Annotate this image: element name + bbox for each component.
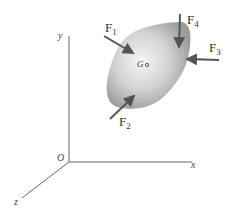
diagram-canvas [0, 0, 239, 216]
z-axis-label: z [14, 197, 18, 207]
force-arrow-f3 [187, 59, 219, 60]
force-label-f1-sub: 1 [112, 27, 117, 37]
z-axis [22, 162, 69, 198]
force-label-f2: F2 [119, 115, 131, 131]
force-label-f3-sub: 3 [216, 47, 221, 57]
origin-label: O [57, 153, 64, 163]
force-label-f4-sub: 4 [194, 19, 199, 29]
x-axis-label: x [191, 160, 195, 170]
force-label-f4: F4 [187, 13, 199, 29]
y-axis-label: y [58, 31, 62, 41]
force-label-f3: F3 [209, 41, 221, 57]
force-arrow-f4 [179, 14, 180, 47]
force-label-f1: F1 [105, 21, 117, 37]
force-label-f2-sub: 2 [126, 121, 131, 131]
mass-center-label: G [137, 60, 144, 69]
